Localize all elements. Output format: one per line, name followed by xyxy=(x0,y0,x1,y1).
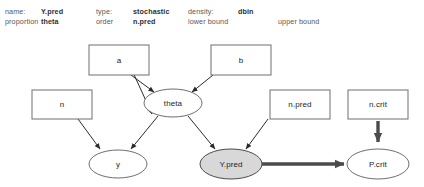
field-label-density: density: xyxy=(188,7,214,16)
node-a[interactable]: a xyxy=(89,45,149,75)
edge-n-y xyxy=(78,119,100,149)
node-P-crit[interactable]: P.crit xyxy=(347,149,409,179)
node-Y-pred-label: Y.pred xyxy=(219,160,242,169)
node-n-pred[interactable]: n.pred xyxy=(270,90,330,119)
node-y[interactable]: y xyxy=(89,150,147,178)
field-value-density[interactable]: dbin xyxy=(238,7,254,16)
field-value-name[interactable]: Y.pred xyxy=(41,7,63,16)
edge-a-theta xyxy=(131,75,154,92)
node-y-label: y xyxy=(116,160,120,169)
node-property-toolbar: name: Y.pred type: stochastic density: d… xyxy=(0,0,424,30)
field-value-order[interactable]: n.pred xyxy=(133,17,156,26)
field-label-proportion: proportion xyxy=(5,17,38,26)
node-n-pred-label: n.pred xyxy=(288,100,311,109)
node-n-label: n xyxy=(60,100,65,109)
field-label-lower-bound: lower bound xyxy=(188,17,228,26)
node-n-crit-label: n.crit xyxy=(369,100,388,109)
doodle-screen: name: Y.pred type: stochastic density: d… xyxy=(0,0,424,187)
field-label-name: name: xyxy=(5,7,25,16)
edge-theta-y xyxy=(131,116,158,149)
field-value-type[interactable]: stochastic xyxy=(133,7,170,16)
edge-theta-Ypred xyxy=(188,116,215,149)
node-n-crit[interactable]: n.crit xyxy=(348,90,408,119)
field-label-type: type: xyxy=(96,7,112,16)
field-value-proportion[interactable]: theta xyxy=(41,17,59,26)
node-n[interactable]: n xyxy=(32,90,92,119)
node-b-label: b xyxy=(239,56,244,65)
node-layer: a b n n.pred n.crit xyxy=(32,45,409,179)
node-theta[interactable]: theta xyxy=(144,89,202,117)
edge-npred-Ypred xyxy=(246,119,268,149)
field-label-upper-bound: upper bound xyxy=(278,17,319,26)
node-theta-label: theta xyxy=(164,99,183,108)
doodle-graph-canvas[interactable]: a b n n.pred n.crit xyxy=(0,30,424,187)
node-a-label: a xyxy=(117,56,122,65)
node-P-crit-label: P.crit xyxy=(369,160,387,169)
node-Y-pred[interactable]: Y.pred xyxy=(200,149,262,179)
node-b[interactable]: b xyxy=(211,45,271,75)
edge-b-theta xyxy=(192,75,213,92)
field-label-order: order xyxy=(96,17,113,26)
